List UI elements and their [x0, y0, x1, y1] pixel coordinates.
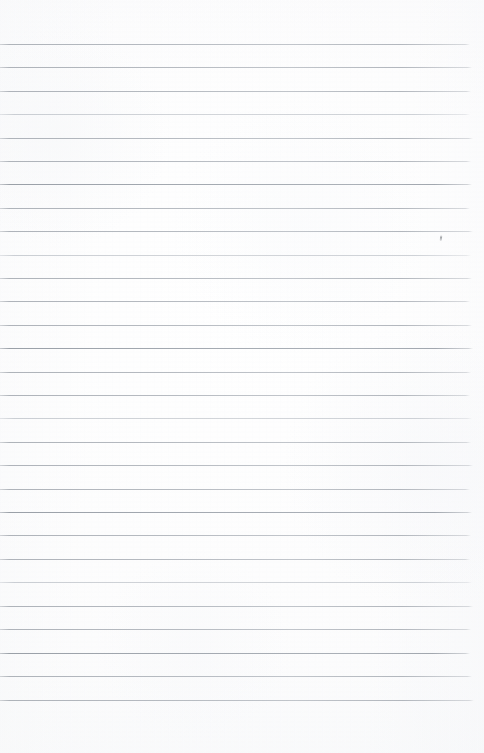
rule-line [0, 629, 471, 630]
scanned-page [0, 0, 484, 753]
rule-line [0, 91, 471, 92]
rule-line [0, 512, 472, 513]
rule-line [0, 114, 470, 115]
rule-line [0, 418, 472, 419]
pencil-dot-icon [440, 235, 443, 241]
rule-line [0, 255, 471, 256]
rule-line [0, 208, 470, 209]
rule-line [0, 301, 470, 302]
rule-line [0, 676, 472, 677]
paper-grain-texture [0, 0, 484, 753]
rule-line [0, 348, 473, 349]
ruled-lines-layer [0, 0, 484, 753]
rule-line [0, 231, 473, 232]
rule-line [0, 395, 470, 396]
rule-line [0, 278, 472, 279]
rule-line [0, 489, 470, 490]
rule-line [0, 138, 473, 139]
rule-line [0, 606, 473, 607]
rule-line [0, 559, 470, 560]
rule-line [0, 582, 472, 583]
rule-line [0, 44, 470, 45]
scan-shading-overlay [0, 0, 484, 753]
rule-line [0, 535, 471, 536]
rule-line [0, 325, 472, 326]
rule-line [0, 442, 471, 443]
rule-line [0, 184, 472, 185]
rule-line [0, 372, 471, 373]
rule-line [0, 67, 472, 68]
rule-line [0, 653, 470, 654]
rule-line [0, 465, 473, 466]
rule-line [0, 161, 471, 162]
rule-line [0, 700, 474, 701]
